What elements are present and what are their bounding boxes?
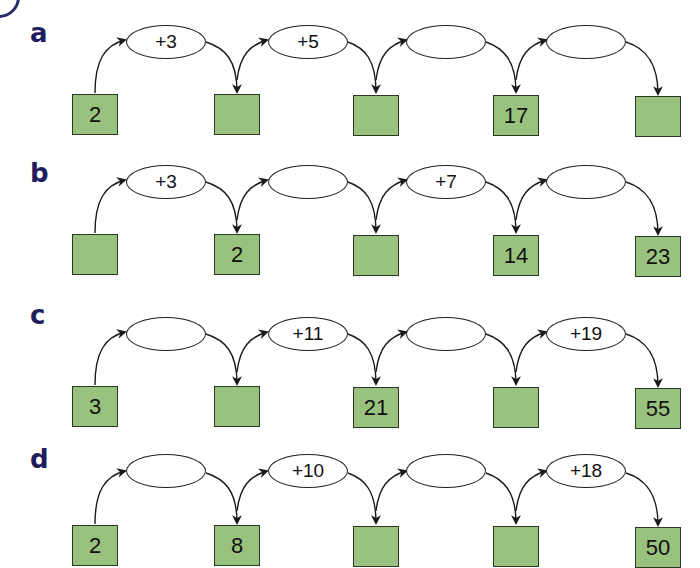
number-box[interactable] (214, 94, 260, 135)
number-box[interactable] (353, 235, 399, 276)
number-box[interactable]: 50 (635, 527, 681, 568)
operator-oval[interactable]: +18 (546, 454, 626, 488)
number-box[interactable]: 2 (72, 94, 118, 135)
operator-oval[interactable]: +19 (546, 317, 626, 351)
number-box[interactable] (214, 386, 260, 427)
number-box[interactable]: 2 (214, 234, 260, 275)
operator-oval[interactable] (126, 454, 206, 488)
operator-oval[interactable] (406, 317, 486, 351)
problem-c: c +11 +19 3 21 55 (0, 290, 700, 430)
operator-oval[interactable] (546, 25, 626, 59)
operator-oval[interactable] (268, 165, 348, 199)
number-box[interactable] (72, 234, 118, 275)
problem-a: a +3 +5 2 17 (0, 0, 700, 140)
problem-d: d +10 +18 2 8 50 (0, 428, 700, 568)
operator-oval[interactable] (406, 25, 486, 59)
number-box[interactable]: 14 (493, 235, 539, 276)
number-box[interactable]: 3 (72, 386, 118, 427)
operator-oval[interactable] (126, 317, 206, 351)
number-box[interactable] (493, 387, 539, 428)
number-box[interactable]: 2 (72, 525, 118, 566)
operator-oval[interactable]: +7 (406, 165, 486, 199)
number-box[interactable] (353, 95, 399, 136)
number-box[interactable]: 21 (353, 387, 399, 428)
number-box[interactable] (353, 526, 399, 567)
operator-oval[interactable]: +3 (126, 25, 206, 59)
number-box[interactable]: 55 (635, 388, 681, 429)
number-box[interactable]: 17 (493, 95, 539, 136)
number-box[interactable] (493, 526, 539, 567)
number-box[interactable]: 8 (214, 525, 260, 566)
operator-oval[interactable]: +11 (268, 317, 348, 351)
number-box[interactable] (635, 96, 681, 137)
operator-oval[interactable] (546, 165, 626, 199)
problem-b: b +3 +7 2 14 23 (0, 140, 700, 280)
operator-oval[interactable]: +10 (268, 454, 348, 488)
operator-oval[interactable] (406, 454, 486, 488)
number-box[interactable]: 23 (635, 236, 681, 277)
operator-oval[interactable]: +5 (268, 25, 348, 59)
operator-oval[interactable]: +3 (126, 165, 206, 199)
